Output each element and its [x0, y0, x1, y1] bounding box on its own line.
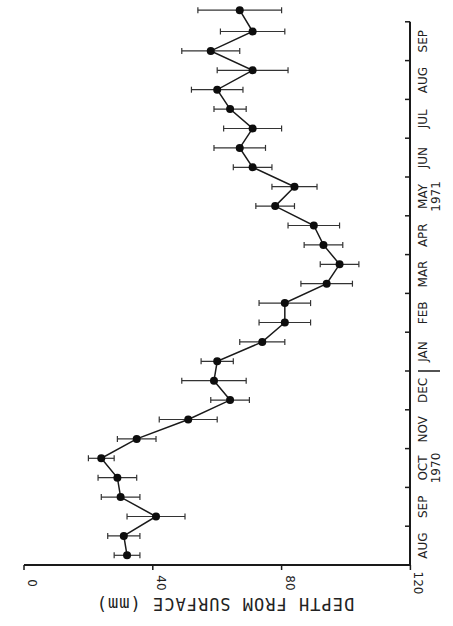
data-point [236, 6, 244, 14]
month-label: MAR [416, 261, 430, 288]
month-label: JUN [416, 147, 430, 169]
data-point [226, 396, 234, 404]
month-label: NOV [416, 415, 430, 442]
data-point [271, 202, 279, 210]
data-point [249, 163, 257, 171]
data-point [213, 357, 221, 365]
data-point [236, 144, 244, 152]
data-point [249, 125, 257, 133]
axis-labels: 04080120DEPTH FROM SURFACE (mm)AUGSEPOCT… [25, 30, 443, 614]
month-label: JUL [416, 109, 430, 129]
data-point [258, 338, 266, 346]
month-label: APR [416, 223, 430, 247]
error-bars [88, 7, 358, 558]
depth-tick-label: 80 [283, 575, 297, 590]
data-point [226, 105, 234, 113]
data-point [133, 435, 141, 443]
month-label: SEP [416, 496, 430, 518]
data-point [120, 532, 128, 540]
data-point [213, 86, 221, 94]
data-point [336, 260, 344, 268]
depth-axis-title-text: DEPTH FROM SURFACE (mm) [96, 594, 354, 614]
data-point [323, 280, 331, 288]
data-point [310, 222, 318, 230]
depth-tick-label: 40 [154, 575, 168, 590]
month-label: AUG [416, 67, 430, 93]
depth-tick-label: 120 [411, 572, 425, 595]
depth-chart: 04080120DEPTH FROM SURFACE (mm)AUGSEPOCT… [0, 0, 453, 626]
month-label: SEP [416, 30, 430, 52]
year-label: 1971 [429, 181, 443, 212]
data-point [249, 28, 257, 36]
data-point [123, 551, 131, 559]
year-label: 1970 [429, 453, 443, 484]
data-point [207, 47, 215, 55]
data-point [210, 377, 218, 385]
axes [24, 22, 440, 570]
data-point [319, 241, 327, 249]
month-label: FEB [416, 301, 430, 324]
month-label: OCT [416, 455, 430, 481]
data-point [117, 493, 125, 501]
data-point [281, 319, 289, 327]
month-label: DEC [416, 378, 430, 403]
data-point [152, 513, 160, 521]
month-label: JAN [416, 341, 430, 363]
data-point [281, 299, 289, 307]
data-point [249, 66, 257, 74]
data-point [290, 183, 298, 191]
data-point [97, 454, 105, 462]
data-point [184, 416, 192, 424]
month-label: AUG [416, 532, 430, 558]
data-point [113, 474, 121, 482]
month-label: MAY [416, 183, 430, 209]
data-points [97, 6, 343, 559]
depth-tick-label: 0 [25, 579, 39, 587]
